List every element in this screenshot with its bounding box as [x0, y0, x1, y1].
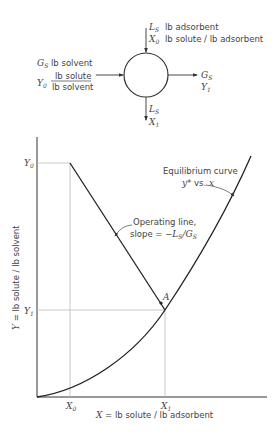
y1-tick-label: Y1 [24, 306, 34, 317]
left-inlet-conc-label: Y0 [37, 78, 47, 89]
x0-tick-label: X0 [65, 401, 76, 412]
point-a-label: A [162, 292, 170, 302]
y0-tick-label: Y0 [24, 158, 34, 169]
operating-label-line1: Operating line, [133, 217, 196, 227]
operating-label-line2: slope = −LS/GS [130, 229, 197, 240]
equilibrium-label-line2: y* vs. x [181, 178, 214, 188]
right-outlet-conc-label: Y1 [201, 82, 211, 93]
bottom-outlet-flow-label: LS [148, 104, 159, 115]
top-inlet-conc-label: X0 [148, 34, 159, 45]
x-axis-label: X = lb solute / lb adsorbent [95, 410, 214, 420]
stage-circle [124, 53, 168, 97]
top-inlet-conc-text: lb solute / lb adsorbent [165, 34, 264, 44]
left-inlet-flow-text: lb solvent [51, 58, 93, 68]
left-inlet-frac-num: lb solute [55, 71, 91, 81]
top-inlet-flow-label: LS [148, 22, 159, 33]
right-outlet-flow-label: GS [201, 70, 212, 81]
adsorption-diagram: LS lb adsorbent X0 lb solute / lb adsorb… [0, 0, 275, 434]
equilibrium-label-line1: Equilibrium curve [163, 166, 238, 176]
top-inlet-flow-text: lb adsorbent [165, 22, 219, 32]
equilibrium-chart: Y0 Y1 X0 X1 A Equilibrium curve y* vs. x… [11, 137, 267, 420]
left-inlet-flow-label: GS [37, 58, 48, 69]
y-axis-label: Y = lb solute / lb solvent [11, 225, 21, 330]
stage-flow-diagram: LS lb adsorbent X0 lb solute / lb adsorb… [37, 22, 264, 128]
bottom-outlet-conc-label: X1 [148, 117, 159, 128]
left-inlet-frac-den: lb solvent [52, 82, 94, 92]
